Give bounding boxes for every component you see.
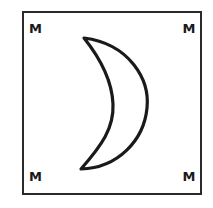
- crescent-moon-icon: [0, 0, 213, 208]
